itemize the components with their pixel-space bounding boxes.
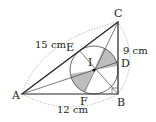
label-d: D xyxy=(121,57,130,70)
shaded-sector-lower xyxy=(70,70,94,92)
label-e: E xyxy=(66,41,74,54)
label-b: B xyxy=(117,96,125,109)
measure-ab: 12 cm xyxy=(57,104,89,115)
label-i: I xyxy=(88,56,92,69)
measure-ac: 15 cm xyxy=(35,39,67,50)
geometry-diagram: A B C I D E F 15 cm 9 cm 12 cm xyxy=(0,0,156,122)
incenter-dot xyxy=(92,68,95,71)
label-a: A xyxy=(11,89,21,102)
shaded-sector-upper xyxy=(94,48,118,70)
measure-bc: 9 cm xyxy=(123,45,148,56)
label-c: C xyxy=(114,7,122,20)
